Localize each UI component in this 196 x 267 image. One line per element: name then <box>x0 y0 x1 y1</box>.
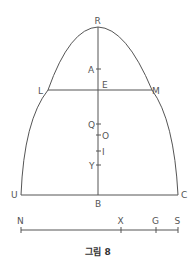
label-m: M <box>152 86 160 96</box>
diagram-canvas: R A E L M Q O I Y U B C N X G S 그림 8 <box>0 0 196 267</box>
label-l: L <box>38 86 43 96</box>
label-n: N <box>17 216 24 226</box>
label-o: O <box>102 131 109 141</box>
label-u: U <box>11 190 18 200</box>
label-r: R <box>95 16 101 26</box>
parabola-curve <box>21 27 178 195</box>
label-i: I <box>102 147 105 157</box>
label-y: Y <box>88 161 95 171</box>
label-q: Q <box>88 120 95 130</box>
figure-caption: 그림 8 <box>85 246 110 257</box>
label-a: A <box>88 65 95 75</box>
label-x: X <box>118 216 124 226</box>
label-g: G <box>152 216 159 226</box>
label-s: S <box>175 216 181 226</box>
label-c: C <box>181 190 187 200</box>
label-e: E <box>102 80 108 90</box>
label-b: B <box>95 199 101 209</box>
